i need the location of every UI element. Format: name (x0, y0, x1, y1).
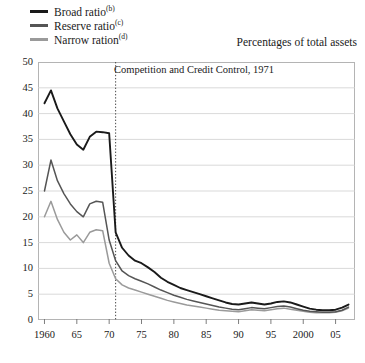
y-tick-label-45: 45 (7, 83, 33, 94)
chart-container: Broad ratio(b) Reserve ratio(c) Narrow r… (0, 0, 365, 363)
y-tick-label-30: 30 (7, 160, 33, 171)
legend-label-narrow-ratio: Narrow ration(d) (54, 31, 128, 46)
series-line-reserve-ratio (44, 160, 348, 312)
units-note: Percentages of total assets (237, 36, 357, 48)
y-tick-label-0: 0 (7, 315, 33, 326)
series-line-broad-ratio (44, 90, 348, 310)
legend-item-reserve-ratio: Reserve ratio(c) (30, 18, 128, 32)
legend-item-narrow-ratio: Narrow ration(d) (30, 32, 128, 46)
y-tick-label-10: 10 (7, 263, 33, 274)
y-tick-label-15: 15 (7, 238, 33, 249)
y-tick-label-35: 35 (7, 134, 33, 145)
y-tick-label-40: 40 (7, 109, 33, 120)
legend-note-narrow-ratio: (d) (119, 32, 128, 41)
legend-item-broad-ratio: Broad ratio(b) (30, 4, 128, 18)
legend-swatch-broad-ratio (30, 10, 48, 13)
series-line-narrow-ration (44, 201, 348, 312)
x-tick-label-2005: 05 (316, 330, 356, 341)
y-tick-label-25: 25 (7, 186, 33, 197)
y-tick-label-5: 5 (7, 289, 33, 300)
plot-area (38, 62, 355, 320)
legend-note-reserve-ratio: (c) (115, 18, 123, 27)
legend-note-broad-ratio: (b) (106, 4, 115, 13)
plot-svg (38, 62, 355, 326)
legend-swatch-narrow-ratio (30, 38, 48, 41)
chart-legend: Broad ratio(b) Reserve ratio(c) Narrow r… (30, 4, 128, 46)
annotation-label-ccc-1971: Competition and Credit Control, 1971 (114, 64, 274, 75)
legend-swatch-reserve-ratio (30, 24, 48, 27)
y-tick-label-50: 50 (7, 57, 33, 68)
y-tick-label-20: 20 (7, 212, 33, 223)
